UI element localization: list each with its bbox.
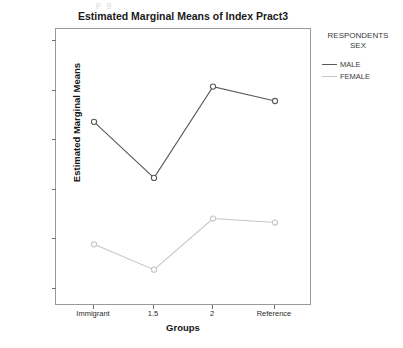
data-point-marker [272, 220, 277, 225]
x-tick-mark [93, 305, 94, 309]
legend-title-line-1: RESPONDENTS [318, 31, 398, 41]
x-axis-title: Groups [55, 322, 311, 333]
legend: RESPONDENTS SEX MALEFEMALE [318, 31, 402, 82]
y-tick-mark [52, 288, 56, 289]
legend-title: RESPONDENTS SEX [318, 31, 398, 51]
x-tick-mark [212, 305, 213, 309]
legend-item-label: FEMALE [340, 72, 370, 81]
y-tick-mark [52, 238, 56, 239]
data-point-marker [151, 175, 156, 180]
x-tick-label: 2 [177, 309, 247, 318]
data-point-marker [272, 98, 277, 103]
legend-items: MALEFEMALE [318, 59, 402, 82]
x-tick-mark [153, 305, 154, 309]
legend-title-line-2: SEX [318, 41, 398, 51]
data-point-marker [91, 119, 96, 124]
y-tick-mark [52, 40, 56, 41]
y-axis-title: Estimated Marginal Means [71, 37, 82, 209]
x-tick-mark [274, 305, 275, 309]
series-female [91, 216, 277, 272]
legend-item-male[interactable]: MALE [318, 59, 402, 70]
y-tick-mark [52, 189, 56, 190]
series-male [91, 84, 277, 180]
scan-artifact-text: p g [96, 0, 226, 9]
data-point-marker [91, 242, 96, 247]
legend-line-swatch [322, 64, 337, 65]
plot-area: Estimated Marginal Means 2.902.802.702.6… [55, 28, 311, 305]
data-point-marker [210, 216, 215, 221]
chart-canvas: p g Estimated Marginal Means of Index Pr… [0, 0, 403, 348]
chart-title: Estimated Marginal Means of Index Pract3 [55, 10, 311, 22]
data-point-marker [151, 267, 156, 272]
x-tick-label: Reference [239, 309, 309, 318]
y-tick-mark [52, 139, 56, 140]
series-line [94, 87, 275, 178]
y-tick-mark [52, 90, 56, 91]
series-line [94, 219, 275, 270]
series-plot [56, 29, 310, 304]
legend-item-label: MALE [340, 60, 360, 69]
legend-line-swatch [322, 76, 337, 77]
legend-item-female[interactable]: FEMALE [318, 71, 402, 82]
data-point-marker [210, 84, 215, 89]
